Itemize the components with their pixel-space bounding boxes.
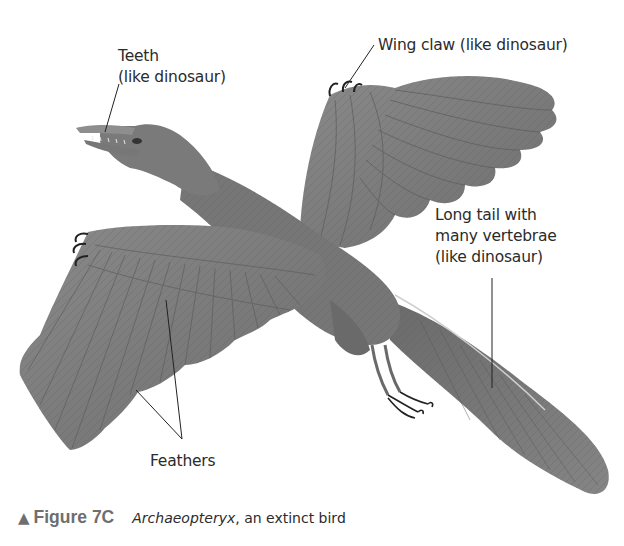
figure-caption: ▲ Figure 7C Archaeopteryx , an extinct b… xyxy=(18,507,346,528)
tail xyxy=(385,295,609,494)
figure-number: Figure 7C xyxy=(34,507,115,528)
label-teeth-line2: (like dinosaur) xyxy=(118,67,226,88)
caption-description: , an extinct bird xyxy=(235,510,346,526)
label-long-tail: Long tail with many vertebrae (like dino… xyxy=(435,205,557,268)
caption-species-name: Archaeopteryx xyxy=(132,510,235,526)
foot-claws-icon xyxy=(388,392,433,418)
legs xyxy=(372,345,400,395)
archaeopteryx-figure: Teeth (like dinosaur) Wing claw (like di… xyxy=(0,0,624,546)
label-feathers: Feathers xyxy=(150,451,215,472)
label-long-tail-line1: Long tail with xyxy=(435,205,557,226)
label-wing-claw: Wing claw (like dinosaur) xyxy=(378,35,568,56)
left-wing xyxy=(20,225,326,450)
label-teeth: Teeth (like dinosaur) xyxy=(118,46,226,88)
teeth-leader-line xyxy=(105,84,119,132)
archaeopteryx-illustration xyxy=(0,0,624,546)
label-teeth-line1: Teeth xyxy=(118,46,226,67)
label-long-tail-line2: many vertebrae xyxy=(435,226,557,247)
wing-claw-leader-line xyxy=(345,45,374,88)
triangle-marker-icon: ▲ xyxy=(18,509,30,527)
label-long-tail-line3: (like dinosaur) xyxy=(435,247,557,268)
head xyxy=(76,124,220,195)
